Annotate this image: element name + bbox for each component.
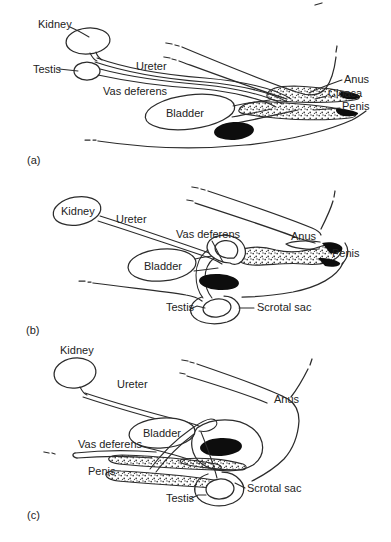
label-penis-a: Penis [342, 100, 370, 112]
label-testis-b: Testis [166, 301, 195, 313]
label-anus-a: Anus [344, 73, 370, 85]
label-vas-deferens-b: Vas deferens [176, 228, 241, 240]
gland-blob-a [213, 121, 254, 142]
label-cloaca-a: Cloaca [328, 87, 363, 99]
label-testis-a: Testis [33, 63, 62, 75]
label-bladder-b: Bladder [144, 260, 182, 272]
label-kidney-a: Kidney [38, 18, 72, 30]
label-testis-c: Testis [166, 492, 195, 504]
label-vas-deferens-c: Vas deferens [78, 438, 143, 450]
panel-a: Kidney Testis Ureter Vas deferens Bladde… [27, 3, 370, 166]
kidney-stem-a [90, 53, 97, 61]
label-bladder-a: Bladder [166, 107, 204, 119]
anatomy-diagram: Kidney Testis Ureter Vas deferens Bladde… [0, 0, 391, 542]
kidney-shape-a [65, 26, 111, 56]
label-ureter-a: Ureter [136, 60, 167, 72]
page-mark [315, 3, 322, 5]
panel-b: Kidney Ureter Vas deferens Bladder Anus … [26, 187, 360, 336]
panel-c: Kidney Ureter Anus Bladder Vas deferens … [27, 344, 312, 521]
panel-tag-c: (c) [27, 509, 40, 521]
panel-tag-a: (a) [27, 154, 40, 166]
figure: Kidney Testis Ureter Vas deferens Bladde… [0, 0, 391, 542]
sheath-line-c [75, 451, 156, 453]
label-penis-c: Penis [88, 465, 116, 477]
testis-shape-b [202, 297, 232, 319]
label-ureter-c: Ureter [117, 378, 148, 390]
label-anus-c: Anus [274, 393, 300, 405]
label-scrotal-sac-b: Scrotal sac [257, 301, 312, 313]
label-penis-b: Penis [332, 247, 360, 259]
panel-tag-b: (b) [26, 324, 39, 336]
label-kidney-c: Kidney [60, 344, 94, 356]
label-kidney-b: Kidney [61, 205, 95, 217]
label-vas-deferens-a: Vas deferens [103, 85, 168, 97]
label-bladder-c: Bladder [143, 427, 181, 439]
label-scrotal-sac-c: Scrotal sac [247, 482, 302, 494]
label-ureter-b: Ureter [116, 213, 147, 225]
label-anus-b: Anus [291, 230, 317, 242]
kidney-shape-c [52, 355, 98, 391]
